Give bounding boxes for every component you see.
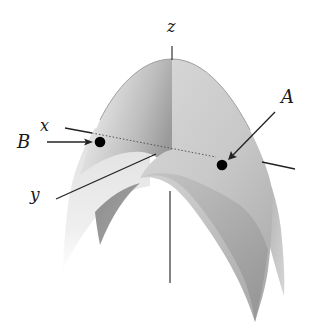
x-axis-right <box>262 162 295 169</box>
x-axis-left <box>65 128 92 133</box>
paraboloid-diagram <box>0 0 313 336</box>
point-a-label: A <box>281 88 294 106</box>
x-axis-label: x <box>40 118 49 134</box>
point-b-marker <box>95 137 106 148</box>
point-b-label: B <box>17 133 30 151</box>
z-axis-label: z <box>167 19 175 35</box>
y-axis-label: y <box>30 186 40 203</box>
point-a-marker <box>217 160 228 171</box>
